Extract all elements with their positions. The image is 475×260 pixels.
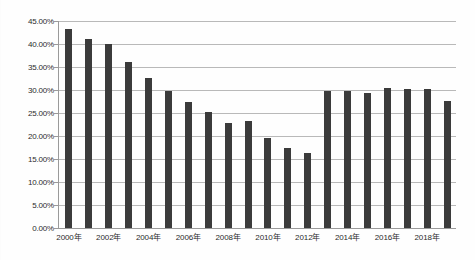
bar bbox=[384, 88, 391, 228]
bar bbox=[125, 62, 132, 228]
bar bbox=[344, 91, 351, 228]
y-tick-label: 15.00% bbox=[2, 155, 54, 164]
bar bbox=[284, 148, 291, 228]
y-tick-label: 35.00% bbox=[2, 63, 54, 72]
y-tick-mark bbox=[54, 113, 58, 114]
bar bbox=[304, 153, 311, 228]
x-tick-label: 2006年 bbox=[176, 231, 201, 242]
bar bbox=[165, 91, 172, 228]
x-axis-tick-labels: 2000年2002年2004年2006年2008年2010年2012年2014年… bbox=[58, 231, 456, 247]
bar-series bbox=[58, 21, 456, 228]
y-tick-mark bbox=[54, 67, 58, 68]
y-tick-label: 40.00% bbox=[2, 40, 54, 49]
x-tick-label: 2000年 bbox=[56, 231, 81, 242]
x-tick-label: 2004年 bbox=[136, 231, 161, 242]
y-tick-mark bbox=[54, 182, 58, 183]
y-tick-mark bbox=[54, 136, 58, 137]
x-tick-label: 2014年 bbox=[335, 231, 360, 242]
x-tick-label: 2008年 bbox=[215, 231, 240, 242]
y-tick-mark bbox=[54, 205, 58, 206]
y-tick-label: 0.00% bbox=[2, 224, 54, 233]
y-tick-label: 25.00% bbox=[2, 109, 54, 118]
y-tick-mark bbox=[54, 44, 58, 45]
bar bbox=[264, 138, 271, 228]
bar bbox=[404, 89, 411, 228]
bar bbox=[185, 102, 192, 228]
x-tick-label: 2012年 bbox=[295, 231, 320, 242]
x-tick-label: 2002年 bbox=[96, 231, 121, 242]
bar bbox=[105, 44, 112, 228]
gridline-0.00 bbox=[58, 228, 456, 229]
bar bbox=[65, 29, 72, 228]
bar bbox=[324, 91, 331, 228]
y-tick-label: 5.00% bbox=[2, 201, 54, 210]
y-tick-mark bbox=[54, 21, 58, 22]
x-tick-label: 2010年 bbox=[255, 231, 280, 242]
y-tick-label: 10.00% bbox=[2, 178, 54, 187]
bar bbox=[364, 93, 371, 228]
x-tick-label: 2018年 bbox=[414, 231, 439, 242]
y-tick-label: 20.00% bbox=[2, 132, 54, 141]
bar bbox=[424, 89, 431, 228]
bar bbox=[85, 39, 92, 228]
y-tick-mark bbox=[54, 159, 58, 160]
bar bbox=[145, 78, 152, 228]
y-tick-label: 30.00% bbox=[2, 86, 54, 95]
y-tick-mark bbox=[54, 90, 58, 91]
bar bbox=[225, 123, 232, 228]
bar bbox=[444, 101, 451, 228]
bar-chart: 0.00%5.00%10.00%15.00%20.00%25.00%30.00%… bbox=[0, 0, 475, 260]
bar bbox=[245, 121, 252, 228]
plot-area bbox=[58, 21, 456, 228]
bar bbox=[205, 112, 212, 228]
y-tick-label: 45.00% bbox=[2, 17, 54, 26]
y-tick-mark bbox=[54, 228, 58, 229]
x-tick-label: 2016年 bbox=[375, 231, 400, 242]
